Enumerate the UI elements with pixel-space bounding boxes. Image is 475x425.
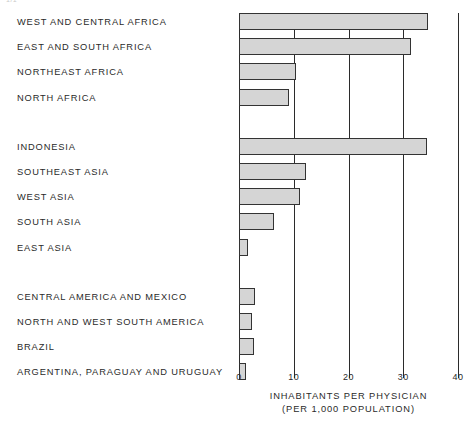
bar xyxy=(239,38,411,55)
bar xyxy=(239,138,427,155)
bar xyxy=(239,288,255,305)
category-label: NORTH AFRICA xyxy=(17,93,96,103)
plot-area xyxy=(239,13,458,378)
gridline-30 xyxy=(403,13,404,378)
x-tick-label: 30 xyxy=(398,372,409,382)
category-label: INDONESIA xyxy=(17,142,76,152)
x-tick-label: 10 xyxy=(288,372,299,382)
category-label: SOUTH ASIA xyxy=(17,217,81,227)
category-label: NORTH AND WEST SOUTH AMERICA xyxy=(17,317,204,327)
x-tick-mark xyxy=(294,365,295,370)
x-tick-label: 20 xyxy=(343,372,354,382)
top-text-fragment: 1/1 xyxy=(6,0,17,3)
category-label: EAST AND SOUTH AFRICA xyxy=(17,42,152,52)
x-tick-label: 0 xyxy=(236,372,242,382)
category-label: WEST AND CENTRAL AFRICA xyxy=(17,17,167,27)
x-tick-mark xyxy=(403,365,404,370)
bar xyxy=(239,163,306,180)
gridline-20 xyxy=(349,13,350,378)
bar xyxy=(239,313,252,330)
bar xyxy=(239,188,300,205)
x-tick-label: 40 xyxy=(452,372,463,382)
bar-chart: 1/1 WEST AND CENTRAL AFRICAEAST AND SOUT… xyxy=(0,0,475,425)
bar xyxy=(239,13,428,30)
bar xyxy=(239,239,248,256)
category-label: BRAZIL xyxy=(17,342,55,352)
category-label: SOUTHEAST ASIA xyxy=(17,167,109,177)
x-tick-mark xyxy=(239,365,240,370)
gridline-40 xyxy=(458,13,459,378)
x-tick-mark xyxy=(458,365,459,370)
category-label-column: WEST AND CENTRAL AFRICAEAST AND SOUTH AF… xyxy=(0,13,235,378)
bar xyxy=(239,89,289,106)
bar xyxy=(239,63,296,80)
x-axis-subtitle: (PER 1,000 POPULATION) xyxy=(239,404,458,414)
category-label: CENTRAL AMERICA AND MEXICO xyxy=(17,292,187,302)
x-tick-mark xyxy=(349,365,350,370)
category-label: NORTHEAST AFRICA xyxy=(17,67,124,77)
bar xyxy=(239,338,254,355)
category-label: WEST ASIA xyxy=(17,192,75,202)
x-axis-title: INHABITANTS PER PHYSICIAN xyxy=(239,391,458,401)
bar xyxy=(239,213,274,230)
category-label: EAST ASIA xyxy=(17,243,72,253)
category-label: ARGENTINA, PARAGUAY AND URUGUAY xyxy=(17,367,223,377)
